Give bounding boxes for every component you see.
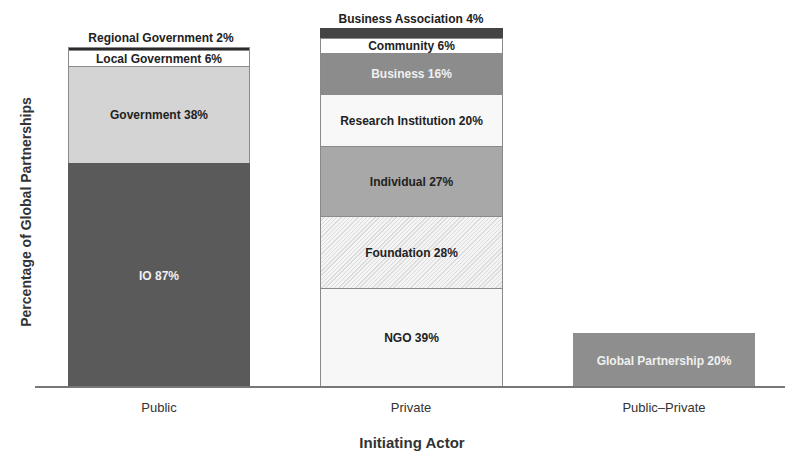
segment-local-government: Local Government 6%: [68, 50, 250, 66]
bar-private: Community 6% Business 16% Research Insti…: [320, 28, 503, 387]
segment-business: Business 16%: [320, 53, 503, 94]
segment-label: Foundation 28%: [365, 246, 458, 260]
segment-research-institution: Research Institution 20%: [320, 94, 503, 146]
segment-label: Community 6%: [368, 39, 455, 53]
label-regional-government: Regional Government 2%: [88, 31, 233, 45]
segment-individual: Individual 27%: [320, 146, 503, 216]
segment-label: Research Institution 20%: [340, 114, 483, 128]
segment-label: Individual 27%: [370, 175, 453, 189]
segment-label: Business 16%: [371, 67, 452, 81]
segment-label: NGO 39%: [384, 331, 439, 345]
segment-business-association: [320, 28, 503, 38]
segment-label: Global Partnership 20%: [597, 354, 732, 368]
bar-public: Local Government 6% Government 38% IO 87…: [68, 47, 250, 387]
segment-label: IO 87%: [139, 269, 179, 283]
segment-label: Government 38%: [110, 108, 208, 122]
segment-label: Local Government 6%: [96, 52, 222, 66]
x-tick-public-private: Public–Private: [622, 400, 705, 415]
x-tick-public: Public: [141, 400, 176, 415]
segment-community: Community 6%: [320, 38, 503, 53]
segment-io: IO 87%: [68, 163, 250, 387]
segment-foundation: Foundation 28%: [320, 216, 503, 288]
segment-government: Government 38%: [68, 66, 250, 163]
stacked-bar-chart: Percentage of Global Partnerships Local …: [0, 0, 805, 471]
segment-ngo: NGO 39%: [320, 288, 503, 387]
x-axis-title: Initiating Actor: [359, 434, 464, 451]
label-business-association: Business Association 4%: [339, 12, 484, 26]
y-axis-title: Percentage of Global Partnerships: [18, 97, 34, 327]
x-tick-private: Private: [391, 400, 431, 415]
bar-public-private: Global Partnership 20%: [573, 333, 755, 387]
segment-global-partnership: Global Partnership 20%: [573, 333, 755, 387]
x-axis-line: [35, 386, 785, 388]
